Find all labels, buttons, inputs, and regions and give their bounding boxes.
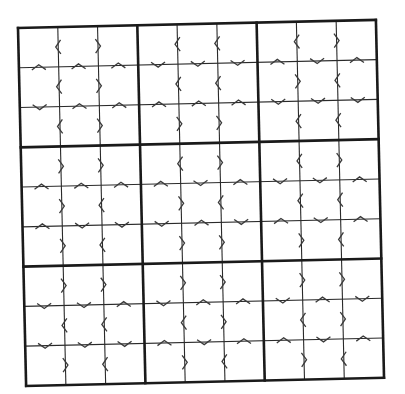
cell-r5-c7[interactable] [260,181,301,222]
cell-r5-c3[interactable] [101,184,142,225]
puzzle-stage: Greater-Than Sudoku [0,0,405,394]
cell-r4-c2[interactable] [60,145,101,186]
cell-r8-c1[interactable] [24,305,65,346]
cell-r9-c7[interactable] [264,340,305,381]
cell-r6-c9[interactable] [341,219,382,260]
cell-r5-c9[interactable] [340,179,381,220]
cell-r5-c1[interactable] [22,186,63,227]
cell-r6-c8[interactable] [301,220,342,261]
cell-r5-c5[interactable] [181,183,222,224]
cell-r1-c9[interactable] [336,20,377,61]
cell-r3-c8[interactable] [298,100,339,141]
cell-r3-c6[interactable] [219,102,260,143]
cell-r8-c5[interactable] [183,302,224,343]
cell-r9-c4[interactable] [145,343,186,384]
cell-r9-c6[interactable] [224,341,265,382]
cell-r6-c5[interactable] [182,222,223,263]
cell-r9-c3[interactable] [105,343,146,384]
cell-r2-c4[interactable] [138,64,179,105]
cell-r6-c1[interactable] [23,226,64,267]
cell-r4-c7[interactable] [259,141,300,182]
cell-r2-c8[interactable] [297,61,338,102]
cell-r4-c6[interactable] [220,142,261,183]
cell-r7-c5[interactable] [182,262,223,303]
cell-r9-c9[interactable] [343,338,384,379]
cell-r5-c2[interactable] [61,185,102,226]
cell-r8-c7[interactable] [263,300,304,341]
cell-r8-c2[interactable] [64,305,105,346]
cell-r9-c5[interactable] [184,342,225,383]
cell-r6-c3[interactable] [102,224,143,265]
cell-r8-c9[interactable] [342,298,383,339]
cell-r5-c8[interactable] [300,180,341,221]
cell-r3-c5[interactable] [179,103,220,144]
cell-r2-c3[interactable] [98,65,139,106]
cell-r7-c8[interactable] [302,259,343,300]
cell-r4-c8[interactable] [299,140,340,181]
cell-r4-c1[interactable] [21,146,62,187]
cell-r2-c7[interactable] [258,61,299,102]
cell-r7-c6[interactable] [222,261,263,302]
cell-r5-c6[interactable] [220,182,261,223]
grid-root [17,19,385,387]
cell-r1-c8[interactable] [296,21,337,62]
cell-r4-c9[interactable] [339,139,380,180]
cell-r5-c4[interactable] [141,183,182,224]
cell-r2-c5[interactable] [178,63,219,104]
cell-r3-c9[interactable] [338,99,379,140]
cell-r4-c5[interactable] [180,143,221,184]
cell-r7-c1[interactable] [23,266,64,307]
cell-r1-c3[interactable] [98,25,139,66]
cell-r6-c6[interactable] [221,221,262,262]
cell-r1-c6[interactable] [217,23,258,64]
cell-r3-c2[interactable] [60,106,101,147]
cell-r3-c1[interactable] [20,107,61,148]
cell-r8-c4[interactable] [144,303,185,344]
cell-r1-c2[interactable] [58,26,99,67]
cell-r7-c7[interactable] [262,260,303,301]
cell-r2-c6[interactable] [218,62,259,103]
cell-r6-c7[interactable] [261,221,302,262]
cell-r9-c8[interactable] [304,339,345,380]
cell-r4-c4[interactable] [140,144,181,185]
cell-r9-c1[interactable] [25,345,66,386]
cell-r4-c3[interactable] [100,145,141,186]
cell-r7-c9[interactable] [342,258,383,299]
cell-r9-c2[interactable] [65,344,106,385]
cell-r1-c7[interactable] [257,22,298,63]
cell-r6-c2[interactable] [62,225,103,266]
cell-r7-c3[interactable] [103,264,144,305]
cell-r8-c6[interactable] [223,301,264,342]
cell-r2-c9[interactable] [337,60,378,101]
cell-r1-c1[interactable] [18,27,59,68]
cell-r2-c1[interactable] [19,67,60,108]
cell-r7-c4[interactable] [143,263,184,304]
cell-r1-c5[interactable] [177,23,218,64]
cell-r3-c3[interactable] [99,105,140,146]
cell-r3-c7[interactable] [258,101,299,142]
sudoku-grid [0,0,405,394]
cell-r1-c4[interactable] [137,24,178,65]
cell-r3-c4[interactable] [139,104,180,145]
cell-r8-c3[interactable] [104,304,145,345]
cells-layer [18,20,384,386]
cell-r8-c8[interactable] [303,299,344,340]
cell-r2-c2[interactable] [59,66,100,107]
cell-r6-c4[interactable] [142,223,183,264]
cell-r7-c2[interactable] [63,265,104,306]
